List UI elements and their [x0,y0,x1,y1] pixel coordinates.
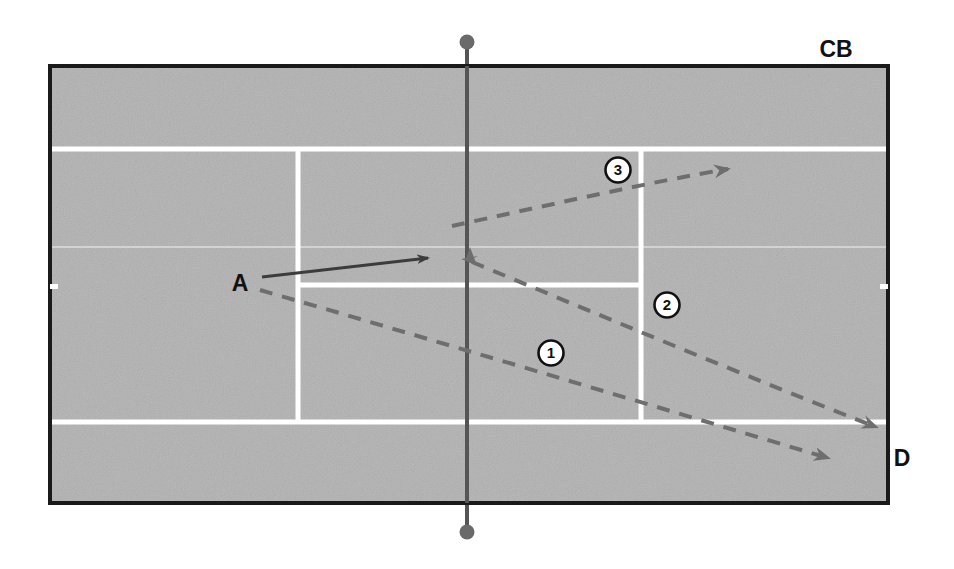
net-post-top-icon [460,35,475,50]
marker-1: 1 [539,341,564,366]
marker-3-label: 3 [614,161,622,178]
marker-3: 3 [606,158,631,183]
net-post-bottom-icon [460,525,475,540]
tennis-court-diagram: 1 2 3 CB D A [0,0,954,569]
center-mark-left-icon [50,284,58,289]
center-mark-right-icon [880,284,888,289]
label-cb: CB [819,36,852,62]
label-player-a: A [232,270,249,296]
label-d: D [894,445,911,471]
marker-2-label: 2 [663,296,671,313]
court [50,66,888,503]
marker-2: 2 [655,293,680,318]
marker-1-label: 1 [547,344,555,361]
diagram-canvas: 1 2 3 CB D A [0,0,954,569]
